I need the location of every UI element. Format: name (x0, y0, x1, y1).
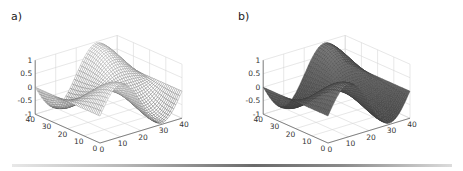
gradient-divider (12, 164, 452, 167)
svg-text:0: 0 (328, 145, 333, 154)
surface-plot-shaded: b) -1-0.500.51010203040010203040 (232, 0, 463, 150)
svg-text:0.5: 0.5 (248, 69, 260, 78)
svg-text:10: 10 (74, 137, 84, 146)
svg-text:-0.5: -0.5 (18, 96, 33, 105)
svg-text:-0.5: -0.5 (246, 96, 261, 105)
svg-text:40: 40 (179, 120, 189, 129)
surface-plot-mesh: a) -1-0.500.51010203040010203040 (0, 0, 231, 150)
svg-text:30: 30 (42, 122, 52, 131)
svg-text:10: 10 (118, 139, 128, 148)
svg-text:10: 10 (302, 137, 312, 146)
svg-text:30: 30 (159, 126, 169, 135)
svg-text:0: 0 (100, 145, 105, 154)
svg-text:0: 0 (27, 83, 32, 92)
svg-text:40: 40 (253, 115, 263, 124)
svg-text:1: 1 (27, 56, 32, 65)
mesh-surface-chart: -1-0.500.51010203040010203040 (0, 0, 231, 160)
svg-text:20: 20 (58, 130, 68, 139)
svg-text:30: 30 (270, 122, 280, 131)
svg-text:40: 40 (407, 120, 417, 129)
svg-text:20: 20 (138, 133, 148, 142)
svg-text:40: 40 (25, 115, 35, 124)
shaded-surface-chart: -1-0.500.51010203040010203040 (232, 0, 463, 160)
svg-text:30: 30 (387, 126, 397, 135)
svg-text:0.5: 0.5 (20, 69, 32, 78)
svg-text:0: 0 (93, 144, 98, 153)
svg-text:1: 1 (255, 56, 260, 65)
svg-text:20: 20 (286, 130, 296, 139)
svg-text:10: 10 (346, 139, 356, 148)
svg-text:0: 0 (255, 83, 260, 92)
svg-text:0: 0 (321, 144, 326, 153)
svg-text:20: 20 (366, 133, 376, 142)
